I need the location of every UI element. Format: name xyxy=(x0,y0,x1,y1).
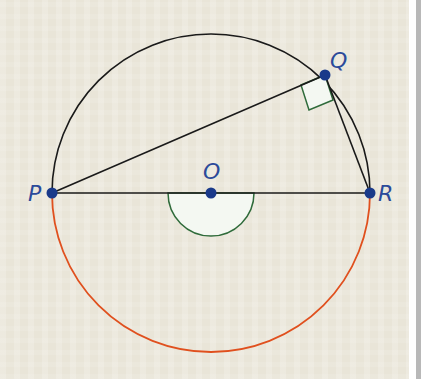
right-angle-marker-Q xyxy=(301,75,333,110)
point-Q xyxy=(320,70,331,81)
point-O xyxy=(206,188,217,199)
point-P xyxy=(47,188,58,199)
label-P: P xyxy=(28,181,42,206)
label-R: R xyxy=(378,181,393,206)
segment-PQ xyxy=(52,75,325,193)
angle-marker-O xyxy=(168,193,254,236)
label-Q: Q xyxy=(330,48,347,73)
segment-QR xyxy=(325,75,370,193)
point-R xyxy=(365,188,376,199)
label-O: O xyxy=(203,159,220,184)
circle-diagram: P Q R O xyxy=(0,0,421,379)
